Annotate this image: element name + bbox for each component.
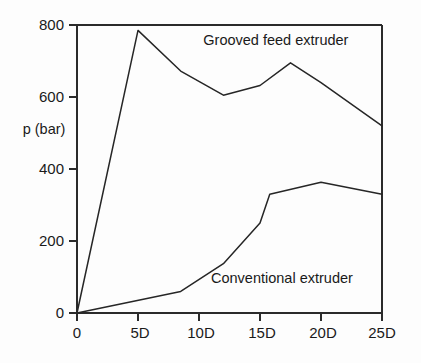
x-tick-label-20D: 20D (309, 324, 337, 341)
y-axis-title: p (bar) (23, 121, 66, 137)
x-tick-label-25D: 25D (368, 324, 396, 341)
y-tick-label-400: 400 (39, 160, 64, 177)
y-tick-label-800: 800 (39, 16, 64, 33)
x-tick-label-5D: 5D (130, 324, 149, 341)
annotation-grooved-feed-extruder: Grooved feed extruder (203, 32, 348, 48)
x-tick-label-0: 0 (73, 324, 81, 341)
annotation-conventional-extruder: Conventional extruder (211, 270, 353, 286)
y-tick-label-0: 0 (56, 304, 64, 321)
y-tick-label-200: 200 (39, 232, 64, 249)
x-tick-label-15D: 15D (248, 324, 276, 341)
line-chart-canvas: 800 600 400 200 0 p (bar) 0 5D 10D 15D 2… (0, 0, 421, 363)
y-tick-label-600: 600 (39, 88, 64, 105)
series-line-conventional-extruder (77, 182, 382, 313)
chart-figure: 800 600 400 200 0 p (bar) 0 5D 10D 15D 2… (0, 0, 421, 363)
x-tick-label-10D: 10D (187, 324, 215, 341)
